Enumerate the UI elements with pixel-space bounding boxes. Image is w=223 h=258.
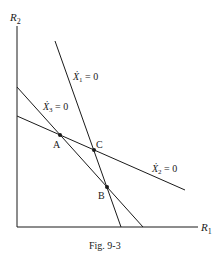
isocline-x1-label: Ẋ1 = 0 [72, 71, 98, 84]
point-a-label: A [53, 139, 61, 150]
point-c-label: C [96, 139, 103, 150]
isocline-x2 [17, 116, 185, 190]
isocline-x2-label: Ẋ2 = 0 [151, 163, 177, 176]
point-a-marker [58, 133, 62, 137]
isocline-x1 [55, 41, 121, 227]
isocline-x3 [17, 87, 143, 227]
point-b-label: B [98, 190, 105, 201]
x-axis-label: R1 [200, 221, 212, 236]
point-b-marker [105, 185, 109, 189]
y-axis-label: R2 [9, 11, 21, 26]
figure-caption: Fig. 9-3 [89, 240, 121, 251]
phase-diagram: R2 R1 Ẋ1 = 0 Ẋ3 = 0 Ẋ2 = 0 A C B Fig. 9-… [0, 0, 223, 258]
isocline-x3-label: Ẋ3 = 0 [42, 101, 68, 114]
